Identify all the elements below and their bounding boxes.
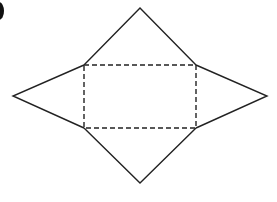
triangle-face-right [196, 65, 267, 128]
triangle-face-left [13, 65, 84, 128]
pyramid-net-diagram [0, 0, 277, 202]
triangle-face-bottom [84, 128, 196, 183]
triangle-face-top [84, 8, 196, 65]
base-rectangle [84, 65, 196, 128]
